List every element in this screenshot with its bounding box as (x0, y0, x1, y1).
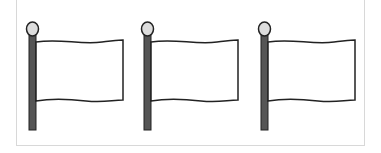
flag-2 (136, 0, 256, 140)
flag-icon (20, 0, 140, 140)
flag-3 (253, 0, 373, 140)
flag-icon (136, 0, 256, 140)
flag-1 (20, 0, 140, 140)
flag-icon (253, 0, 373, 140)
